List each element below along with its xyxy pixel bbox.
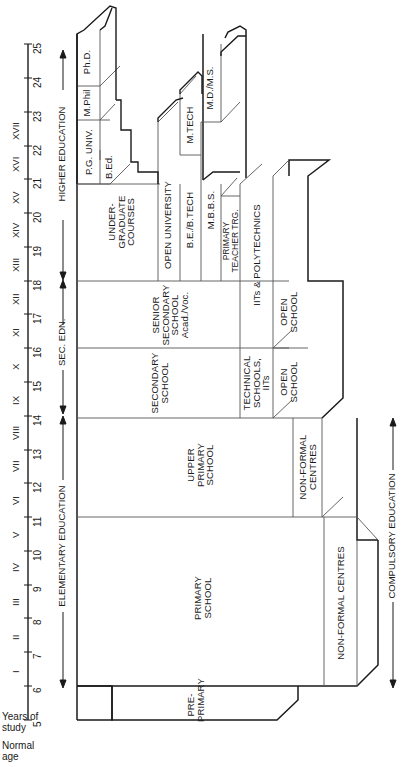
year-XVI: XVI	[11, 157, 21, 172]
upper-primary-non-formal-centres-block: NON-FORMAL CENTRES	[298, 429, 317, 505]
year-II: II	[11, 635, 21, 640]
age-tick-24: 24	[33, 77, 43, 88]
mphil-block: M.Phil	[82, 86, 92, 120]
year-VII: VII	[11, 460, 21, 472]
compulsory-education-label: COMPULSORY EDUCATION	[387, 472, 397, 600]
year-VIII: VIII	[11, 426, 21, 440]
year-XVII: XVII	[11, 122, 21, 140]
age-tick-14: 14	[33, 415, 43, 426]
age-tick-25: 25	[33, 43, 43, 54]
age-tick-17: 17	[33, 313, 43, 324]
year-IV: IV	[11, 563, 21, 572]
year-XIII: XIII	[11, 258, 21, 272]
year-XI: XI	[11, 328, 21, 337]
year-XV: XV	[11, 191, 21, 204]
age-tick-23: 23	[33, 111, 43, 122]
age-tick-9: 9	[33, 586, 43, 592]
phd-block: Ph.D.	[82, 42, 92, 82]
secondary-school-block: SECONDARY SCHOOL	[150, 348, 169, 418]
education-structure-diagram: Years of study Normal age 5 6 7 8 9 10 1…	[0, 0, 412, 767]
iits-polytechnics-block: IITs & POLYTECHNICS	[252, 190, 262, 320]
primary-non-formal-centres-block: NON-FORMAL CENTRES	[336, 538, 346, 668]
age-tick-5: 5	[33, 721, 43, 727]
age-tick-15: 15	[33, 381, 43, 392]
pg-univ-block: P.G. UNIV.	[84, 122, 94, 182]
age-tick-8: 8	[33, 619, 43, 625]
year-XIV: XIV	[11, 223, 21, 238]
year-III: III	[11, 598, 21, 606]
age-tick-12: 12	[33, 482, 43, 493]
age-tick-7: 7	[33, 653, 43, 659]
secondary-education-label: SEC. EDN.	[57, 324, 67, 366]
open-university-block: OPEN UNIVERSITY	[163, 180, 173, 270]
mtech-block: M.TECH	[185, 100, 195, 150]
age-tick-21: 21	[33, 178, 43, 189]
age-tick-16: 16	[33, 347, 43, 358]
year-V: V	[11, 532, 21, 538]
be-btech-block: B.E./B.TECH	[185, 190, 195, 250]
upper-primary-school-block: UPPER PRIMARY SCHOOL	[186, 430, 215, 500]
age-tick-6: 6	[33, 687, 43, 693]
age-tick-13: 13	[33, 449, 43, 460]
year-VI: VI	[11, 496, 21, 505]
technical-schools-block: TECHNICAL SCHOOLS, IITs	[242, 350, 271, 416]
age-tick-19: 19	[33, 246, 43, 257]
primary-teacher-training-block: PRIMARY TEACHER TRG.	[222, 204, 239, 278]
year-I: I	[11, 670, 21, 673]
age-tick-11: 11	[33, 517, 43, 527]
senior-secondary-school-block: SENIOR SECONDARY SCHOOL Acad./Voc.	[151, 282, 189, 348]
year-X: X	[11, 364, 21, 370]
age-tick-22: 22	[33, 145, 43, 156]
normal-age-label: Normal age	[2, 740, 34, 762]
secondary-open-school-block: OPEN SCHOOL	[279, 356, 298, 408]
elementary-education-label: ELEMENTARY EDUCATION	[57, 484, 67, 608]
year-IX: IX	[11, 396, 21, 405]
age-tick-20: 20	[33, 212, 43, 223]
age-tick-18: 18	[33, 280, 43, 291]
bed-block: B.Ed.	[104, 152, 114, 182]
senior-open-school-block: OPEN SCHOOL	[279, 286, 298, 338]
primary-school-block: PRIMARY SCHOOL	[193, 556, 212, 640]
undergraduate-courses-block: UNDER- GRADUATE COURSES	[107, 186, 136, 258]
mbbs-block: M.B.B.S.	[206, 188, 216, 232]
year-XII: XII	[11, 293, 21, 305]
md-ms-block: M.D./M.S.	[205, 58, 215, 118]
higher-education-label: HIGHER EDUCATION	[57, 90, 67, 218]
age-tick-10: 10	[33, 550, 43, 561]
internal-lines	[77, 30, 378, 686]
pre-primary-block: PRE- PRIMARY	[186, 688, 205, 722]
